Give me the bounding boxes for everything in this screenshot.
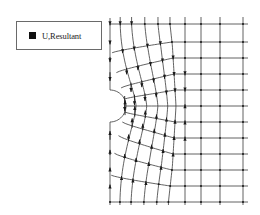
fe-mesh-plot — [0, 0, 260, 215]
mesh-lines — [110, 17, 248, 205]
displacement-arrows — [108, 21, 244, 203]
